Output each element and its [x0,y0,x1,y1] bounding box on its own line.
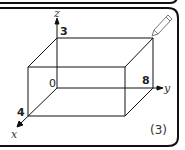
y-axis-arrow [157,86,163,90]
y-axis-label: y [163,82,171,95]
x-axis [20,88,57,124]
box [28,38,153,116]
problem-number: (3) [150,123,167,137]
y-extent-label: 8 [142,74,150,87]
x-axis-label: x [11,128,18,141]
box-edge [28,38,57,67]
z-axis-label: z [53,7,60,20]
x-extent-label: 4 [17,106,25,119]
z-extent-label: 3 [60,25,68,38]
pencil-icon[interactable] [152,15,172,36]
previous-panel-border [0,0,177,3]
axes [17,18,163,127]
box-edge [125,38,153,67]
box-edge [125,88,153,116]
diagram-canvas: z y x 0 3 8 4 (3) [0,0,185,150]
origin-label: 0 [49,77,56,90]
